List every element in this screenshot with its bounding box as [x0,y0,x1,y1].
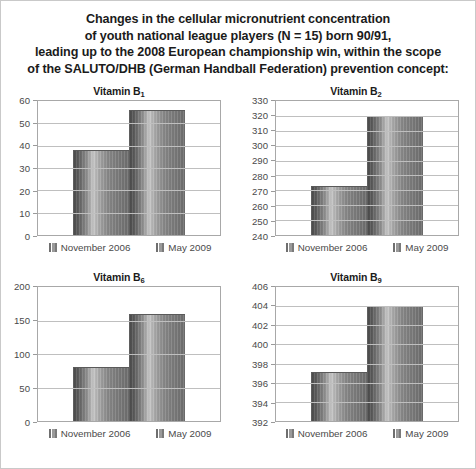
y-tick-label: 250 [252,215,268,226]
y-tick-label: 330 [252,95,268,106]
y-tick-label: 310 [252,125,268,136]
plot-box-vitamin-b2 [275,100,459,236]
y-tick-label: 260 [252,200,268,211]
plot-box-vitamin-b9 [275,286,459,422]
legend-item-november-2006: November 2006 [286,428,368,439]
y-axis-vitamin-b1: 0102030405060 [9,100,33,236]
chart-title-vitamin-b9: Vitamin B9 [237,267,475,286]
legend-swatch-icon [393,243,401,252]
y-tick-label: 270 [252,185,268,196]
y-tick-mark [33,422,37,423]
gridline [276,383,458,384]
y-tick-label: 300 [252,140,268,151]
gridline [276,131,458,132]
legend-vitamin-b1: November 2006 May 2009 [1,242,237,253]
bar-vitamin-b1-series-2 [129,110,185,235]
gridline [276,306,458,307]
bar-vitamin-b6-series-2 [129,314,185,421]
figure-container: Changes in the cellular micronutrient co… [0,0,476,469]
plot-area-vitamin-b6: 050100150200 [9,286,221,422]
y-tick-label: 406 [252,281,268,292]
legend-label: May 2009 [168,428,211,439]
y-tick-mark [271,422,275,423]
chart-title-vitamin-b2: Vitamin B2 [237,81,475,100]
bar-vitamin-b9-series-1 [311,372,367,421]
legend-swatch-icon [393,429,401,438]
gridline [38,354,220,355]
chart-panel-vitamin-b1: Vitamin B1 0102030405060 November 2006 M… [1,81,237,267]
gridline [38,388,220,389]
gridline [38,190,220,191]
chart-title-subscript: 1 [141,90,145,99]
chart-panel-vitamin-b6: Vitamin B6 050100150200 November 2006 Ma… [1,267,237,453]
legend-item-may-2009: May 2009 [393,428,448,439]
caption-line-3: leading up to the 2008 European champion… [11,44,465,61]
chart-title-subscript: 9 [378,276,382,285]
chart-title-base: Vitamin B [330,85,377,97]
y-tick-label: 392 [252,417,268,428]
bar-vitamin-b6-series-1 [73,367,129,421]
figure-caption: Changes in the cellular micronutrient co… [1,1,475,81]
plot-area-vitamin-b2: 240250260270280290300310320330 [245,100,459,236]
gridline [38,321,220,322]
gridline [276,344,458,345]
gridline [276,364,458,365]
bar-vitamin-b2-series-1 [311,186,367,235]
y-tick-label: 240 [252,231,268,242]
chart-panel-vitamin-b9: Vitamin B9 392394396398400402404406 Nove… [237,267,475,453]
y-tick-label: 50 [19,117,30,128]
gridline [276,146,458,147]
y-tick-label: 200 [14,281,30,292]
y-tick-mark [271,236,275,237]
y-tick-label: 0 [25,417,30,428]
legend-item-may-2009: May 2009 [156,428,211,439]
gridline [38,123,220,124]
chart-title-subscript: 6 [141,276,145,285]
y-tick-label: 40 [19,140,30,151]
y-tick-label: 0 [25,231,30,242]
y-tick-label: 394 [252,397,268,408]
legend-swatch-icon [156,243,164,252]
y-tick-label: 150 [14,315,30,326]
y-axis-vitamin-b6: 050100150200 [9,286,33,422]
legend-label: November 2006 [61,242,131,253]
chart-title-base: Vitamin B [93,85,140,97]
y-tick-label: 400 [252,339,268,350]
legend-label: May 2009 [405,428,448,439]
legend-vitamin-b6: November 2006 May 2009 [1,428,237,439]
legend-swatch-icon [49,429,57,438]
y-tick-mark [33,236,37,237]
y-tick-label: 30 [19,163,30,174]
chart-title-base: Vitamin B [93,271,140,283]
chart-panel-vitamin-b2: Vitamin B2 24025026027028029030031032033… [237,81,475,267]
legend-swatch-icon [286,243,294,252]
bar-vitamin-b1-series-1 [73,150,129,235]
y-tick-label: 404 [252,300,268,311]
y-tick-label: 290 [252,155,268,166]
caption-line-4: of the SALUTO/DHB (German Handball Feder… [11,61,465,78]
y-tick-label: 398 [252,358,268,369]
legend-label: November 2006 [61,428,131,439]
y-tick-label: 320 [252,110,268,121]
chart-title-subscript: 2 [378,90,382,99]
legend-swatch-icon [286,429,294,438]
plot-area-vitamin-b9: 392394396398400402404406 [245,286,459,422]
legend-item-november-2006: November 2006 [286,242,368,253]
y-tick-label: 20 [19,185,30,196]
y-tick-label: 396 [252,378,268,389]
legend-label: May 2009 [405,242,448,253]
y-tick-label: 50 [19,383,30,394]
y-tick-label: 280 [252,170,268,181]
legend-vitamin-b2: November 2006 May 2009 [237,242,475,253]
gridline [276,205,458,206]
gridline [276,325,458,326]
y-axis-vitamin-b2: 240250260270280290300310320330 [245,100,271,236]
y-tick-label: 100 [14,349,30,360]
legend-item-may-2009: May 2009 [393,242,448,253]
chart-title-vitamin-b6: Vitamin B6 [1,267,237,286]
legend-label: May 2009 [168,242,211,253]
legend-vitamin-b9: November 2006 May 2009 [237,428,475,439]
gridline [276,161,458,162]
gridline [38,168,220,169]
chart-title-vitamin-b1: Vitamin B1 [1,81,237,100]
